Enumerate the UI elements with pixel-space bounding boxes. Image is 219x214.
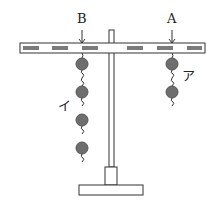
lever-diagram <box>0 0 219 214</box>
stand-base <box>79 185 143 195</box>
lever-bar <box>20 43 205 53</box>
arrow-a-icon <box>169 30 175 43</box>
weight-icon <box>166 86 178 98</box>
weights-a <box>166 53 178 106</box>
stand-block <box>105 167 117 185</box>
label-weights-a: ア <box>182 69 195 82</box>
label-weights-b: イ <box>58 99 71 112</box>
weight-icon <box>76 114 88 126</box>
weight-icon <box>76 142 88 154</box>
weight-icon <box>76 86 88 98</box>
weight-icon <box>166 58 178 70</box>
label-a: A <box>167 12 176 25</box>
weights-b <box>76 53 88 162</box>
weight-icon <box>76 58 88 70</box>
label-b: B <box>77 12 87 25</box>
arrow-b-icon <box>79 30 85 43</box>
